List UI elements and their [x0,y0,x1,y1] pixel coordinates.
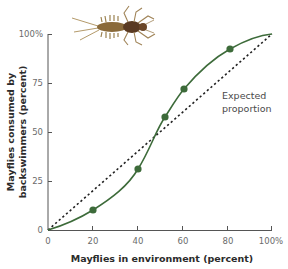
y-axis-title: Mayflies consumed by backswimmers (perce… [5,66,28,199]
mayfly-illustration-icon [72,6,155,45]
y-tick-25: 25 [32,176,43,186]
x-tick-40: 40 [133,236,144,246]
data-point [226,45,233,52]
y-tick-75: 75 [32,78,43,88]
x-tick-20: 20 [88,236,99,246]
data-point [134,165,141,172]
annotation-expected-line2: proportion [222,103,272,114]
x-tick-0: 0 [45,236,50,246]
x-axis: 0 20 40 60 80 100% [45,226,283,246]
x-tick-100: 100% [259,236,283,246]
x-tick-60: 60 [178,236,189,246]
x-axis-title: Mayflies in environment (percent) [71,253,253,264]
y-tick-50: 50 [32,127,43,137]
data-points [89,45,233,213]
y-axis-title-line2: backswimmers (percent) [17,66,28,199]
y-axis-title-line1: Mayflies consumed by [5,72,16,191]
chart: 100% 75 50 25 0 0 20 40 60 80 100% Mayfl… [0,0,288,269]
expected-proportion-line [48,34,272,230]
y-tick-100: 100% [19,29,43,39]
data-point [180,85,187,92]
x-tick-80: 80 [223,236,234,246]
data-point [161,113,168,120]
data-point [89,206,96,213]
y-tick-0: 0 [38,225,43,235]
annotation-expected-line1: Expected [222,90,266,101]
